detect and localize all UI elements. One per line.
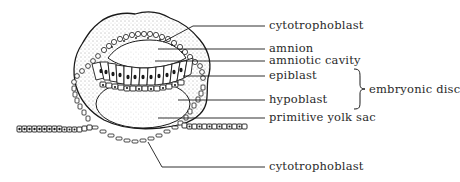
- label-primitive-yolk-sac: primitive yolk sac: [269, 112, 376, 124]
- label-hypoblast: hypoblast: [269, 94, 327, 106]
- label-embryonic-disc: embryonic disc: [369, 84, 460, 96]
- embryonic-disc-brace: [354, 69, 365, 109]
- endometrial-epithelium-right: [182, 123, 247, 129]
- label-cytotrophoblast-top: cytotrophoblast: [269, 20, 364, 32]
- leader-cytotrophoblast-bottom: [148, 142, 265, 167]
- label-epiblast: epiblast: [269, 70, 317, 82]
- label-cytotrophoblast-bottom: cytotrophoblast: [269, 161, 364, 173]
- label-amniotic-cavity: amniotic cavity: [269, 55, 361, 67]
